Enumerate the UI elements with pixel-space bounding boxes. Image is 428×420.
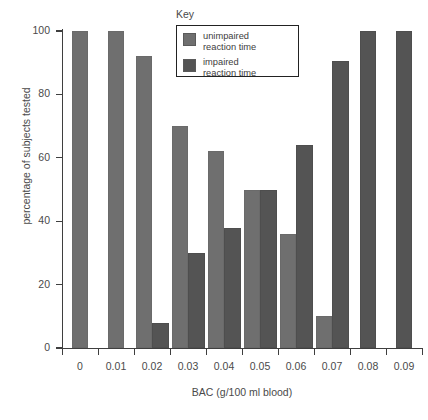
y-tick-label: 100	[16, 24, 50, 36]
bar-unimpaired-0.03	[172, 126, 189, 348]
x-tick-mark	[386, 349, 387, 355]
legend-swatch-impaired-icon	[183, 59, 196, 72]
bar-unimpaired-0.07	[316, 316, 333, 348]
bar-impaired-0.02	[152, 323, 169, 348]
legend-swatch-unimpaired-icon	[183, 33, 196, 46]
legend-item-impaired: impaired reaction time	[183, 57, 292, 78]
y-tick-label: 0	[16, 341, 50, 353]
x-tick-label: 0.02	[132, 360, 172, 372]
bar-unimpaired-0.01	[108, 31, 125, 348]
x-tick-mark	[314, 349, 315, 355]
bar-impaired-0.03	[188, 253, 205, 348]
y-tick-label: 60	[16, 151, 50, 163]
bar-unimpaired-0.04	[208, 151, 225, 348]
y-tick-label: 80	[16, 87, 50, 99]
x-tick-mark	[134, 349, 135, 355]
bar-impaired-0.08	[360, 31, 377, 348]
bar-impaired-0.05	[260, 190, 277, 349]
bar-impaired-0.07	[332, 61, 349, 348]
bar-impaired-0.06	[296, 145, 313, 348]
x-tick-label: 0	[60, 360, 100, 372]
x-tick-mark	[170, 349, 171, 355]
bar-impaired-0.09	[396, 31, 413, 348]
legend-title: Key	[176, 8, 194, 20]
plot-area	[62, 31, 422, 348]
x-tick-mark	[98, 349, 99, 355]
x-tick-mark	[278, 349, 279, 355]
bar-unimpaired-0.05	[244, 190, 261, 349]
bar-unimpaired-0	[72, 31, 89, 348]
x-tick-label: 0.09	[384, 360, 424, 372]
bar-chart: percentage of subjects tested 0204060801…	[0, 0, 428, 420]
x-tick-mark	[206, 349, 207, 355]
x-tick-mark	[422, 349, 423, 355]
bar-unimpaired-0.06	[280, 234, 297, 348]
x-tick-label: 0.05	[240, 360, 280, 372]
bar-unimpaired-0.02	[136, 56, 153, 348]
x-tick-mark	[62, 349, 63, 355]
x-axis-title: BAC (g/100 ml blood)	[62, 386, 422, 398]
legend-label-unimpaired: unimpaired reaction time	[203, 31, 256, 52]
y-tick-label: 20	[16, 278, 50, 290]
legend-item-unimpaired: unimpaired reaction time	[183, 31, 292, 52]
x-tick-label: 0.07	[312, 360, 352, 372]
x-tick-mark	[350, 349, 351, 355]
y-tick-label: 40	[16, 214, 50, 226]
x-tick-label: 0.03	[168, 360, 208, 372]
x-tick-mark	[242, 349, 243, 355]
x-tick-label: 0.06	[276, 360, 316, 372]
x-tick-label: 0.04	[204, 360, 244, 372]
x-tick-label: 0.01	[96, 360, 136, 372]
x-tick-label: 0.08	[348, 360, 388, 372]
legend-box: unimpaired reaction time impaired reacti…	[176, 25, 299, 77]
bar-impaired-0.04	[224, 228, 241, 348]
legend-label-impaired: impaired reaction time	[203, 57, 256, 78]
